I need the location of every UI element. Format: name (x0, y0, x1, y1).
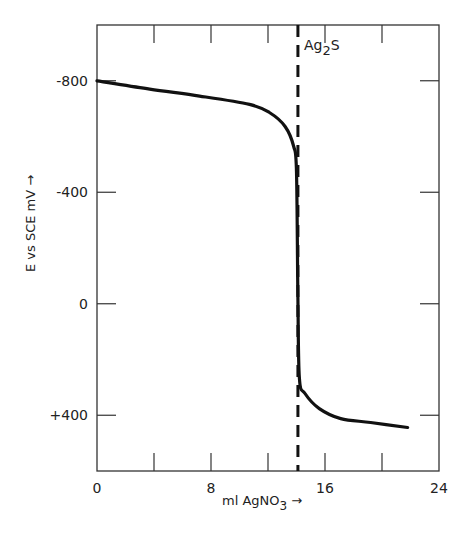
x-tick-label: 16 (316, 480, 334, 496)
x-tick-label: 0 (93, 480, 102, 496)
x-label-sub: 3 (280, 499, 288, 513)
x-tick-label: 8 (207, 480, 216, 496)
y-label-arrow: → (23, 175, 38, 186)
ag2s-annotation: Ag2S (304, 37, 340, 58)
x-label-main: ml AgNO (222, 493, 280, 508)
titration-chart: 081624 -800-4000+400 Ag2S ml AgNO3→ E vs… (0, 0, 467, 534)
x-label-arrow: → (291, 493, 302, 508)
y-label-text: E vs SCE mV (23, 190, 38, 272)
y-tick-label: -400 (56, 184, 88, 200)
plot-border (97, 25, 439, 471)
x-tick-label: 24 (430, 480, 448, 496)
y-tick-label: +400 (50, 407, 88, 423)
plot-frame (97, 25, 439, 471)
ag2s-main: Ag (304, 37, 322, 53)
ag2s-tail: S (331, 37, 340, 53)
y-axis-label: E vs SCE mV→ (23, 175, 38, 272)
y-tick-label: -800 (56, 73, 88, 89)
titration-curve (97, 81, 408, 428)
ag2s-sub: 2 (322, 43, 330, 58)
y-tick-label: 0 (79, 296, 88, 312)
x-axis-label: ml AgNO3→ (222, 493, 302, 513)
y-axis-ticks: -800-4000+400 (50, 73, 439, 424)
